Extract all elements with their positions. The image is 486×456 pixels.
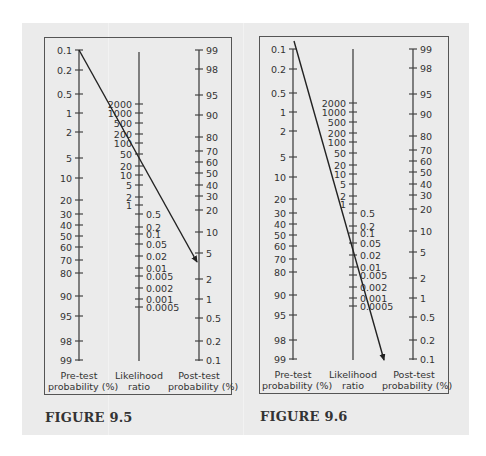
likelihood-tick-label: 0.005 (360, 270, 387, 281)
pretest-tick-label: 0.1 (271, 44, 286, 55)
pretest-tick-label: 80 (274, 267, 286, 278)
pretest-tick-label: 70 (274, 254, 286, 265)
caption-line: probability (%) (382, 380, 446, 391)
pretest-tick-label: 40 (274, 219, 286, 230)
pretest-tick-label: 2 (280, 126, 286, 137)
caption-line: Post-test (382, 369, 446, 380)
pretest-tick-label: 1 (280, 107, 286, 118)
caption-line: probability (%) (262, 380, 324, 391)
pretest-tick-label: 20 (274, 194, 286, 205)
posttest-tick-label: 20 (420, 204, 432, 215)
posttest-axis-caption: Post-test probability (%) (382, 369, 446, 391)
figure-caption: FIGURE 9.6 (260, 409, 348, 424)
likelihood-tick-label: 0.05 (360, 238, 381, 249)
pretest-tick-label: 98 (274, 335, 286, 346)
pretest-tick-label: 30 (274, 208, 286, 219)
caption-line: Likelihood (324, 369, 382, 380)
pretest-tick-label: 0.2 (271, 64, 286, 75)
pretest-axis-caption: Pre-test probability (%) (262, 369, 324, 391)
posttest-tick-label: 70 (420, 145, 432, 156)
likelihood-tick-label: 0.02 (360, 250, 381, 261)
posttest-tick-label: 30 (420, 190, 432, 201)
caption-line: ratio (324, 380, 382, 391)
likelihood-tick-label: 0.0005 (360, 301, 393, 312)
arrow-icon (294, 41, 384, 360)
posttest-tick-label: 95 (420, 89, 432, 100)
likelihood-tick-label: 500 (328, 117, 346, 128)
caption-line: Pre-test (262, 369, 324, 380)
pretest-tick-label: 95 (274, 310, 286, 321)
posttest-tick-label: 60 (420, 156, 432, 167)
pretest-tick-label: 5 (280, 152, 286, 163)
likelihood-tick-label: 100 (328, 137, 346, 148)
posttest-tick-label: 99 (420, 44, 432, 55)
posttest-tick-label: 1 (420, 293, 426, 304)
posttest-tick-label: 50 (420, 167, 432, 178)
pretest-tick-label: 0.5 (271, 88, 286, 99)
posttest-tick-label: 98 (420, 63, 432, 74)
posttest-tick-label: 2 (420, 273, 426, 284)
posttest-tick-label: 80 (420, 131, 432, 142)
posttest-tick-label: 0.5 (420, 312, 435, 323)
likelihood-tick-label: 50 (334, 148, 346, 159)
likelihood-tick-label: 5 (340, 179, 346, 190)
pretest-tick-label: 50 (274, 230, 286, 241)
posttest-tick-label: 40 (420, 179, 432, 190)
posttest-tick-label: 5 (420, 247, 426, 258)
likelihood-axis-caption: Likelihood ratio (324, 369, 382, 391)
pretest-tick-label: 60 (274, 241, 286, 252)
pretest-tick-label: 10 (274, 172, 286, 183)
likelihood-tick-label: 0.5 (360, 208, 375, 219)
pretest-tick-label: 99 (274, 354, 286, 365)
pretest-tick-label: 90 (274, 290, 286, 301)
posttest-tick-label: 90 (420, 109, 432, 120)
posttest-tick-label: 10 (420, 226, 432, 237)
posttest-tick-label: 0.1 (420, 354, 435, 365)
posttest-tick-label: 0.2 (420, 335, 435, 346)
